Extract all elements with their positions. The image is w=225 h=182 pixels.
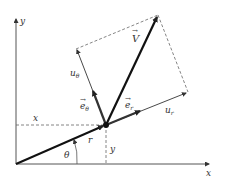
polar-velocity-diagram: x y x y r θ ur er → uθ eθ → V → <box>0 0 225 182</box>
u-theta-label: uθ <box>70 68 80 79</box>
x-axis-label: x <box>206 168 211 178</box>
y-coordinate-label: y <box>109 144 116 154</box>
dashed-line-v-to-ur <box>158 15 188 92</box>
e-r-arrow-accent: → <box>125 95 131 103</box>
e-theta-unit-vector <box>93 91 106 125</box>
dashed-line-utheta-to-v <box>76 15 158 49</box>
theta-angle-arc <box>74 140 77 164</box>
radius-label: r <box>88 135 93 145</box>
u-r-label: ur <box>165 105 175 116</box>
velocity-arrow-accent: → <box>132 27 138 35</box>
theta-label: θ <box>64 150 70 160</box>
y-axis-label: y <box>19 16 26 26</box>
radius-vector <box>16 126 103 164</box>
particle-point <box>103 122 109 128</box>
x-coordinate-label: x <box>33 113 38 123</box>
e-theta-arrow-accent: → <box>80 96 86 104</box>
